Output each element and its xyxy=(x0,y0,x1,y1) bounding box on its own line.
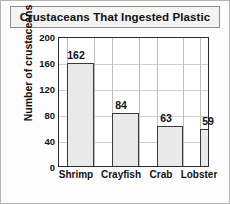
chart-figure: Crustaceans That Ingested Plastic Number… xyxy=(0,0,230,204)
gridline-vertical xyxy=(183,38,184,166)
y-tick-label: 160 xyxy=(25,59,55,69)
bar-value-shrimp: 162 xyxy=(53,49,99,61)
bar-lobster[interactable] xyxy=(200,129,208,166)
x-tick-label-lobster: Lobster xyxy=(168,169,230,180)
y-tick-label: 40 xyxy=(25,137,55,147)
y-tick-label: 80 xyxy=(25,111,55,121)
y-tick-label: 120 xyxy=(25,85,55,95)
bar-crayfish[interactable] xyxy=(112,113,139,166)
bar-shrimp[interactable] xyxy=(67,63,94,166)
bar-value-lobster: 59 xyxy=(185,115,230,127)
bar-crab[interactable] xyxy=(157,126,183,166)
bar-value-crayfish: 84 xyxy=(98,99,144,111)
bar-value-crab: 63 xyxy=(143,112,189,124)
y-tick-label: 200 xyxy=(25,33,55,43)
